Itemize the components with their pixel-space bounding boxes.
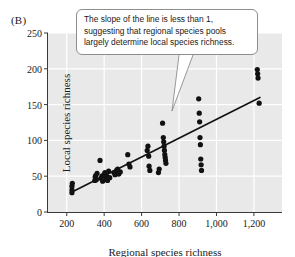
scatter-point xyxy=(157,166,162,171)
scatter-point xyxy=(198,156,203,161)
y-tick-label: 50 xyxy=(12,171,42,182)
x-tick-label: 400 xyxy=(97,218,112,229)
scatter-point xyxy=(196,96,201,101)
x-tick-label: 600 xyxy=(134,218,149,229)
x-tick-label: 200 xyxy=(59,218,74,229)
scatter-point xyxy=(125,152,130,157)
scatter-point xyxy=(163,161,168,166)
scatter-point xyxy=(106,169,111,174)
scatter-point xyxy=(97,158,102,163)
y-tick-label: 200 xyxy=(12,63,42,74)
x-tick-label: 800 xyxy=(172,218,187,229)
scatter-point xyxy=(197,135,202,140)
panel-label: (B) xyxy=(11,14,26,26)
scatter-point xyxy=(255,76,260,81)
figure-panel-b: (B) Local species richness Regional spec… xyxy=(0,0,295,257)
scatter-point xyxy=(94,171,99,176)
plot-area: Local species richness Regional species … xyxy=(47,33,282,213)
scatter-plot-data xyxy=(48,33,282,212)
scatter-point xyxy=(127,164,132,169)
y-tick-label: 250 xyxy=(12,28,42,39)
scatter-point xyxy=(145,144,150,149)
y-tick-label: 100 xyxy=(12,135,42,146)
scatter-point xyxy=(146,154,151,159)
scatter-point xyxy=(118,169,123,174)
y-tick-label: 150 xyxy=(12,99,42,110)
scatter-point xyxy=(94,177,99,182)
x-tick-label: 1,200 xyxy=(243,218,266,229)
scatter-point xyxy=(147,168,152,173)
scatter-point xyxy=(199,168,204,173)
scatter-point xyxy=(107,175,112,180)
y-tick-label: 0 xyxy=(12,207,42,218)
annotation-callout: The slope of the line is less than 1, su… xyxy=(76,9,258,55)
y-axis-title: Local species richness xyxy=(60,73,72,171)
scatter-point xyxy=(197,119,202,124)
scatter-point xyxy=(257,101,262,106)
scatter-point xyxy=(199,162,204,167)
scatter-point xyxy=(197,111,202,116)
scatter-point xyxy=(160,121,165,126)
scatter-point xyxy=(198,142,203,147)
x-tick-label: 1,000 xyxy=(205,218,228,229)
x-axis-title: Regional species richness xyxy=(48,246,282,257)
scatter-point xyxy=(70,181,75,186)
